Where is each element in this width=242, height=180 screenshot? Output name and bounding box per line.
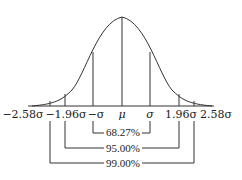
- label-sigma: σ: [146, 108, 154, 121]
- label-9500: 95.00%: [106, 142, 140, 154]
- label-pos258: 2.58σ: [200, 108, 232, 121]
- label-mu: μ: [118, 108, 125, 121]
- label-negsigma: −σ: [88, 108, 105, 121]
- bracket-6827-left: [93, 121, 104, 133]
- label-neg196: −1.96σ: [45, 108, 87, 121]
- label-9900: 99.00%: [106, 157, 140, 169]
- label-pos196: 1.96σ: [165, 108, 197, 121]
- label-6827: 68.27%: [106, 126, 140, 138]
- normal-distribution-diagram: −2.58σ −1.96σ −σ μ σ 1.96σ 2.58σ 68.27% …: [0, 0, 242, 180]
- bracket-9900-left: [50, 121, 104, 163]
- bracket-9500-left: [65, 121, 104, 148]
- bracket-9500-right: [142, 121, 179, 148]
- label-neg258: −2.58σ: [2, 108, 44, 121]
- bracket-6827-right: [142, 121, 150, 133]
